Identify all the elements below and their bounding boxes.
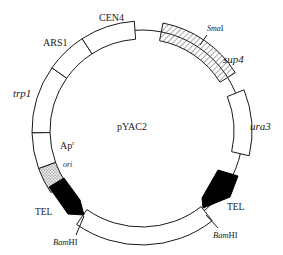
label-tel-left: TEL [35, 207, 53, 217]
label-trp1: trp1 [13, 87, 31, 99]
label-bamhi-left-base: Bam [53, 237, 69, 247]
label-smai: SmaI [207, 24, 224, 33]
label-bamhi-right-base: Bam [213, 230, 229, 240]
label-ori: ori [63, 160, 72, 169]
segment-trp1 [32, 68, 67, 133]
label-smai-suffix: I [221, 24, 224, 33]
label-tel-right: TEL [227, 202, 245, 212]
gene-segments [32, 21, 252, 245]
segment-ura3 [227, 90, 252, 156]
label-bamhi-right-suffix: HI [229, 230, 238, 240]
label-cen4: CEN4 [99, 12, 124, 23]
label-ars1: ARS1 [43, 37, 67, 48]
label-sup4: sup4 [223, 53, 244, 65]
tel-left-shape [49, 178, 84, 215]
label-bamhi-left-suffix: HI [69, 237, 78, 247]
plasmid-map: CEN4 ARS1 trp1 Apr ori SmaI sup4 ura3 pY… [0, 0, 283, 255]
label-bamhi-left: BamHI [53, 237, 78, 247]
segment-stuffer [77, 207, 213, 245]
label-apr-base: Ap [60, 140, 72, 151]
segment-cen4 [82, 21, 135, 54]
label-center-title: pYAC2 [117, 121, 147, 132]
label-apr-sup: r [72, 140, 74, 146]
label-apr: Apr [60, 140, 74, 151]
label-smai-base: Sma [207, 24, 221, 33]
label-bamhi-right: BamHI [213, 230, 238, 240]
label-ura3: ura3 [250, 120, 271, 132]
